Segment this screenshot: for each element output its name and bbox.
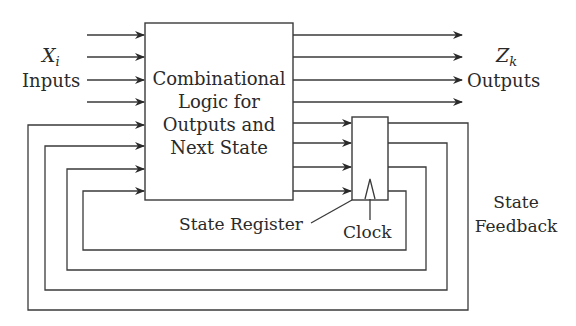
state-feedback-label: State Feedback (475, 192, 558, 236)
clock-label: Clock (343, 222, 392, 242)
svg-text:Feedback: Feedback (475, 216, 558, 236)
inputs-label: Inputs (22, 70, 80, 91)
svg-text:State: State (493, 192, 539, 212)
svg-text:Next State: Next State (170, 137, 268, 158)
next-state-arrows (293, 123, 351, 191)
output-arrows (293, 35, 462, 102)
state-register-leader (311, 200, 352, 223)
svg-text:Logic for: Logic for (178, 91, 260, 112)
output-symbol: Zk (495, 44, 517, 69)
outputs-label: Outputs (467, 70, 540, 91)
input-arrows (87, 35, 144, 102)
svg-text:Combinational: Combinational (152, 68, 285, 89)
fsm-block-diagram: Xi Inputs Zk Outputs Combinational Logic… (0, 0, 576, 326)
state-register-block (352, 117, 388, 200)
svg-text:Outputs and: Outputs and (163, 114, 276, 135)
input-symbol: Xi (40, 44, 60, 69)
state-register-label: State Register (179, 214, 304, 234)
